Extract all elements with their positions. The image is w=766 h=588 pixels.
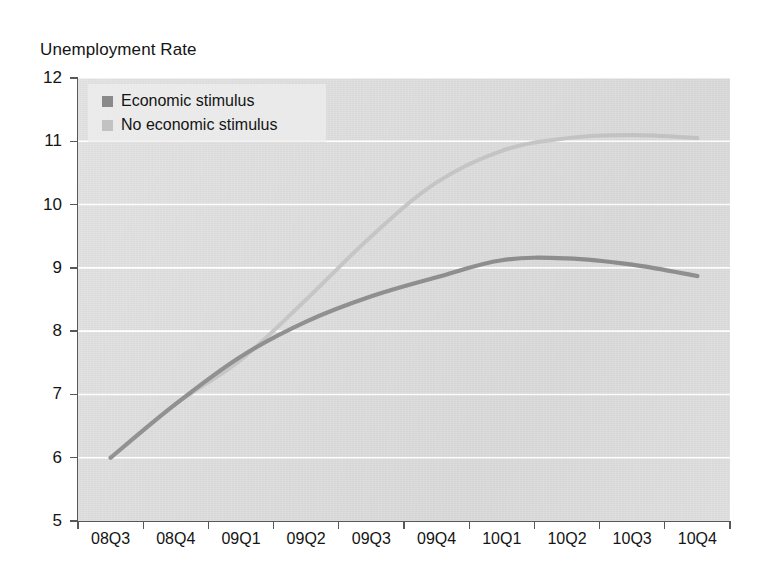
legend-item-label: No economic stimulus (121, 117, 278, 133)
y-tick-label: 10 (22, 195, 62, 215)
x-tick-mark (729, 521, 730, 529)
y-tick-mark (70, 77, 78, 78)
x-tick-mark (599, 521, 600, 529)
legend-swatch-icon (102, 96, 113, 107)
y-tick-label: 7 (22, 384, 62, 404)
unemployment-rate-chart: Unemployment Rate 56789101112 08Q308Q409… (0, 0, 766, 588)
y-tick-mark (70, 457, 78, 458)
x-tick-mark (664, 521, 665, 529)
y-axis-labels: 56789101112 (16, 0, 62, 588)
legend-item-no-economic-stimulus: No economic stimulus (102, 113, 318, 137)
plot-svg (78, 78, 730, 521)
y-tick-mark (70, 394, 78, 395)
y-tick-label: 12 (22, 68, 62, 88)
y-tick-mark (70, 267, 78, 268)
series-line (111, 135, 698, 458)
y-tick-mark (70, 330, 78, 331)
y-tick-label: 6 (22, 448, 62, 468)
legend-item-label: Economic stimulus (121, 93, 254, 109)
x-tick-mark (273, 521, 274, 529)
legend-swatch-icon (102, 120, 113, 131)
x-tick-mark (338, 521, 339, 529)
x-tick-mark (143, 521, 144, 529)
x-tick-mark (403, 521, 404, 529)
y-tick-label: 5 (22, 511, 62, 531)
x-tick-mark (534, 521, 535, 529)
y-axis-line (77, 77, 78, 522)
x-tick-label: 10Q4 (652, 530, 742, 548)
y-tick-label: 9 (22, 258, 62, 278)
y-tick-label: 8 (22, 321, 62, 341)
data-series-group (111, 135, 698, 458)
plot-area (78, 78, 730, 521)
legend-item-economic-stimulus: Economic stimulus (102, 89, 318, 113)
page-title: Unemployment Rate (40, 40, 197, 60)
series-line (111, 258, 698, 458)
y-tick-label: 11 (22, 131, 62, 151)
y-tick-mark (70, 141, 78, 142)
chart-legend: Economic stimulus No economic stimulus (88, 84, 326, 142)
y-tick-mark (70, 204, 78, 205)
x-tick-mark (77, 521, 78, 529)
x-tick-mark (208, 521, 209, 529)
x-tick-mark (469, 521, 470, 529)
